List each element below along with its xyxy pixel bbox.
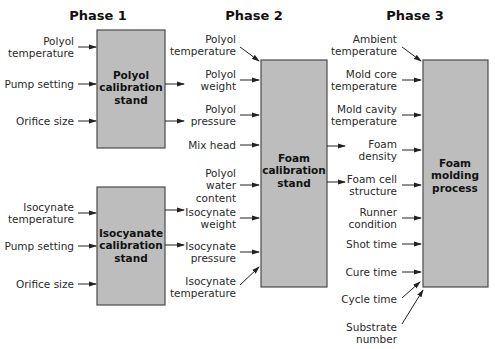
input-label-polyol-temperature: Polyoltemperature: [8, 35, 74, 60]
input-label-polyol-pressure: Polyolpressure: [191, 103, 236, 128]
input-label-orifice-size: Orifice size: [16, 278, 74, 290]
input-label-isocynate-weight: Isocynateweight: [185, 206, 236, 231]
input-label-isocynate-pressure: Isocynatepressure: [185, 240, 236, 265]
input-label-polyol-temperature: Polyoltemperature: [170, 33, 236, 58]
input-label-mold-cavity-temperature: Mold cavitytemperature: [331, 103, 397, 128]
input-label-pump-setting: Pump setting: [5, 240, 74, 252]
phase-2-title: Phase 2: [225, 8, 283, 23]
input-label-shot-time: Shot time: [346, 238, 397, 250]
input-label-mix-head: Mix head: [188, 139, 236, 151]
input-label-runner-condition: Runnercondition: [348, 206, 397, 231]
input-label-mold-core-temperature: Mold coretemperature: [331, 68, 397, 93]
input-label-isocynate-temperature: Isocynatetemperature: [170, 275, 236, 300]
input-label-pump-setting: Pump setting: [5, 78, 74, 90]
input-label-foam-cell-structure: Foam cellstructure: [347, 173, 397, 198]
input-label-isocynate-temperature: Isocynatetemperature: [8, 201, 74, 226]
input-label-substrate-number: Substratenumber: [346, 321, 398, 346]
input-label-polyol-weight: Polyolweight: [201, 68, 236, 93]
arrow-isocynate-temperature: [240, 267, 259, 285]
arrow-cycle-time: [402, 282, 420, 298]
input-label-polyol-water-content: Polyolwatercontent: [196, 167, 237, 204]
arrow-polyol-temperature: [240, 47, 259, 61]
input-label-foam-density: Foamdensity: [359, 138, 398, 163]
arrow-ambient-temperature: [402, 47, 421, 61]
input-label-orifice-size: Orifice size: [16, 115, 74, 127]
phase-3-title: Phase 3: [386, 8, 444, 23]
process-diagram: Phase 1 Phase 2 Phase 3 Polyolcalibratio…: [0, 0, 495, 349]
input-label-cycle-time: Cycle time: [341, 293, 397, 305]
input-label-ambient-temperature: Ambienttemperature: [331, 33, 397, 58]
phase-1-title: Phase 1: [69, 8, 127, 23]
input-label-cure-time: Cure time: [345, 266, 397, 278]
